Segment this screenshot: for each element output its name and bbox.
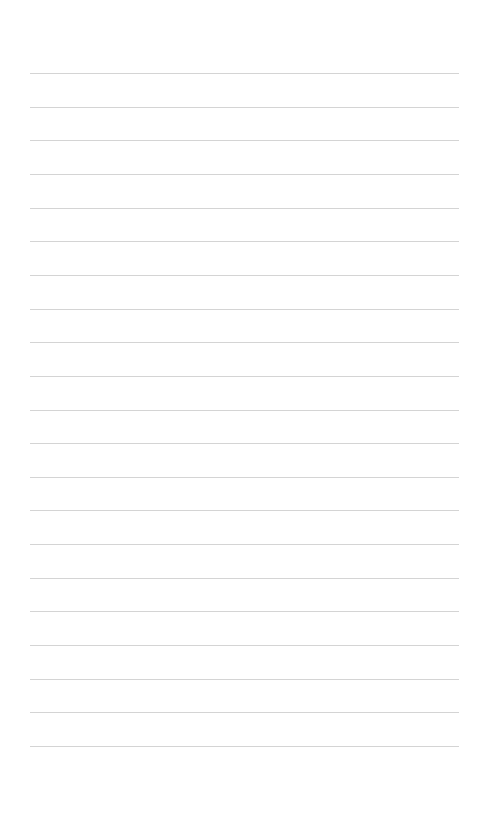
ruled-line [30,645,459,646]
ruled-line [30,578,459,579]
ruled-line [30,443,459,444]
ruled-line [30,107,459,108]
ruled-line [30,241,459,242]
ruled-line [30,746,459,747]
ruled-paper-page [0,0,498,821]
ruled-line [30,140,459,141]
ruled-line [30,510,459,511]
ruled-line [30,309,459,310]
ruled-line [30,477,459,478]
ruled-line [30,376,459,377]
ruled-line [30,611,459,612]
ruled-line [30,208,459,209]
ruled-line [30,712,459,713]
ruled-line [30,275,459,276]
ruled-line [30,174,459,175]
ruled-line [30,342,459,343]
ruled-line [30,410,459,411]
ruled-line [30,73,459,74]
ruled-line [30,679,459,680]
ruled-line [30,544,459,545]
